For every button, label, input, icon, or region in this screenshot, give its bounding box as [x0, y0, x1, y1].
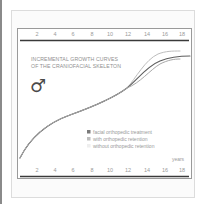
legend-swatch-dark: [87, 130, 91, 134]
bottom-tick: 6: [71, 167, 74, 173]
legend: facial orthopedic treatment with orthope…: [87, 129, 155, 149]
bottom-tick: 2: [35, 167, 38, 173]
top-tick: 2: [35, 31, 38, 37]
legend-label: with orthopedic retention: [93, 136, 148, 142]
growth-chart: 2 4 6 8 10 12 14 16 18 INCREMENTAL GROWT…: [0, 0, 208, 204]
bottom-tick: 8: [90, 167, 93, 173]
bottom-tick: 10: [107, 167, 113, 173]
legend-label: facial orthopedic treatment: [93, 129, 153, 135]
x-axis-unit-label: years: [172, 156, 185, 162]
top-tick: 16: [162, 31, 168, 37]
top-tick: 10: [107, 31, 113, 37]
legend-swatch-mid: [87, 137, 91, 141]
chart-frame: [18, 29, 192, 179]
legend-label: without orthopedic retention: [93, 143, 155, 149]
top-tick: 18: [179, 31, 185, 37]
bottom-tick: 12: [125, 167, 131, 173]
top-tick: 12: [125, 31, 131, 37]
bottom-tick: 4: [53, 167, 56, 173]
bottom-tick: 18: [179, 167, 185, 173]
male-symbol-icon: ♂: [30, 75, 46, 96]
chart-title-line-2: OF THE CRANIOFACIAL SKELETON: [31, 63, 121, 69]
top-tick: 14: [144, 31, 150, 37]
top-tick: 8: [90, 31, 93, 37]
bottom-tick: 16: [162, 167, 168, 173]
top-tick: 4: [53, 31, 56, 37]
chart-title-line-1: INCREMENTAL GROWTH CURVES: [31, 56, 119, 62]
legend-swatch-light: [87, 144, 91, 148]
top-tick: 6: [71, 31, 74, 37]
bottom-tick: 14: [144, 167, 150, 173]
